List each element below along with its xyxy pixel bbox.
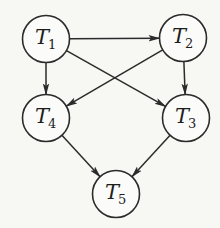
node-t5: T5 [93,171,140,218]
node-label-subscript: 1 [48,37,56,52]
edge-t1-to-t2 [70,38,160,39]
edge-t2-to-t3 [184,61,185,94]
node-label-subscript: 2 [185,36,193,51]
node-t3: T3 [163,95,210,142]
edge-t3-to-t5 [132,135,170,176]
node-t2: T2 [160,15,207,62]
edge-t4-to-t5 [62,135,100,176]
node-label-subscript: 4 [48,116,56,131]
node-t1: T1 [23,16,70,63]
node-label-subscript: 3 [188,116,196,131]
node-t4: T4 [23,95,70,142]
nodes-layer: T1T2T4T3T5 [23,15,210,218]
node-label-subscript: 5 [118,192,126,207]
task-dependency-graph: T1T2T4T3T5 [0,0,220,228]
